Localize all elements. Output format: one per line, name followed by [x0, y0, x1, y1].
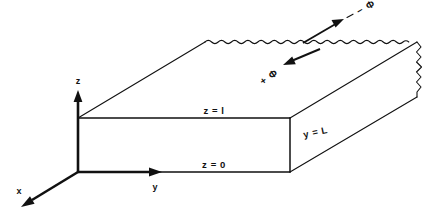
z-axis-arrowhead	[74, 90, 83, 102]
label-y-equals-L: y = L	[302, 124, 329, 140]
incoming-flux-arrowhead	[283, 57, 296, 65]
slab-solid	[78, 40, 422, 172]
outgoing-flux-shaft	[303, 22, 339, 43]
x-axis-arrowhead	[21, 196, 35, 207]
outgoing-flux-tick	[347, 14, 353, 17]
label-z-equals-l: z = l	[203, 105, 224, 116]
coordinate-axes: z y x	[16, 76, 162, 207]
top-face-left-edge	[78, 42, 205, 118]
label-z-equals-0: z = 0	[202, 159, 226, 170]
outgoing-flux-arrow: − Φ	[303, 0, 377, 43]
slab-diagram: z y x z = l z = 0 y = L − Φ + Φ	[0, 0, 435, 215]
outgoing-flux-label: − Φ	[355, 0, 378, 17]
slab-torn-right-edge	[417, 42, 422, 97]
z-axis-label: z	[76, 76, 81, 86]
y-axis-label: y	[152, 182, 157, 192]
incoming-flux-label: + Φ	[258, 67, 281, 87]
figure-canvas: z y x z = l z = 0 y = L − Φ + Φ	[0, 0, 435, 215]
x-axis-label: x	[16, 186, 21, 196]
x-axis-line	[32, 172, 78, 200]
y-axis-arrowhead	[149, 167, 162, 176]
incoming-flux-arrow: + Φ	[258, 49, 320, 87]
